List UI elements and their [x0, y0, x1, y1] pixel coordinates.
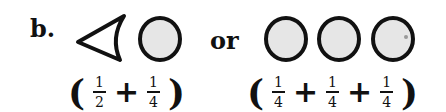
fraction: 14 — [272, 75, 285, 109]
triangle-icon — [74, 12, 130, 64]
or-connector: or — [210, 26, 239, 55]
circle-icon — [316, 15, 364, 65]
fraction: 14 — [147, 75, 160, 109]
fraction: 12 — [93, 75, 106, 109]
open-paren: ( — [247, 74, 264, 110]
circle-icon — [370, 15, 418, 65]
expression-a: ( 12 + 14 ) — [68, 74, 185, 110]
fraction: 14 — [380, 75, 393, 109]
close-paren: ) — [168, 74, 185, 110]
expression-b: ( 14 + 14 + 14 ) — [247, 74, 418, 110]
plus-sign: + — [114, 77, 139, 107]
problem-label: b. — [30, 14, 55, 43]
fraction: 14 — [326, 75, 339, 109]
circle-icon — [263, 15, 311, 65]
plus-sign: + — [347, 77, 372, 107]
circle-icon — [136, 14, 184, 64]
plus-sign: + — [293, 77, 318, 107]
open-paren: ( — [68, 74, 85, 110]
close-paren: ) — [401, 74, 418, 110]
